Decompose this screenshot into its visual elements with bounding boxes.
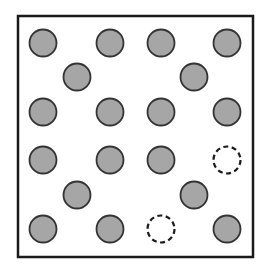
filled-circle bbox=[97, 30, 124, 57]
filled-circle bbox=[214, 99, 241, 126]
empty-dashed-circle bbox=[148, 216, 175, 243]
filled-circle bbox=[97, 147, 124, 174]
filled-circle bbox=[181, 182, 208, 209]
filled-circle bbox=[30, 30, 57, 57]
filled-circle bbox=[30, 216, 57, 243]
filled-circle bbox=[148, 147, 175, 174]
filled-circle bbox=[214, 30, 241, 57]
filled-circle bbox=[148, 30, 175, 57]
filled-circle bbox=[97, 216, 124, 243]
filled-circle bbox=[30, 99, 57, 126]
filled-circle bbox=[64, 182, 91, 209]
filled-circle bbox=[64, 64, 91, 91]
filled-circle bbox=[97, 99, 124, 126]
empty-dashed-circle bbox=[214, 147, 241, 174]
filled-circle bbox=[214, 216, 241, 243]
circle-grid bbox=[30, 30, 241, 243]
filled-circle bbox=[148, 99, 175, 126]
filled-circle bbox=[30, 147, 57, 174]
circle-pattern-diagram bbox=[0, 0, 265, 267]
filled-circle bbox=[181, 64, 208, 91]
